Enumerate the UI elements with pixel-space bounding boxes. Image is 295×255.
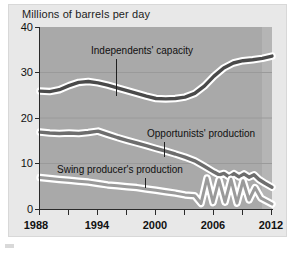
x-axis-label-2000: 2000 [135,219,175,231]
y-axis-line [39,27,40,210]
series-swing-producers-production [40,178,272,204]
y-axis-label-30: 30 [7,66,33,78]
x-tick-2012 [271,210,272,215]
y-tick-30 [35,72,39,73]
y-axis-label-20: 20 [7,112,33,124]
annotation-swing-producers-production: Swing producer's production [57,164,183,175]
x-axis-label-2012: 2012 [251,219,291,231]
y-tick-10 [35,163,39,164]
y-axis-label-10: 10 [7,157,33,169]
x-tick-2003 [184,210,185,215]
chart-figure: Millions of barrels per day In [0,0,295,255]
annotation-leader-independents [116,59,117,96]
y-tick-40 [35,27,39,28]
x-tick-1997 [126,210,127,215]
plot-area: Independents' capacity Opportunists' pro… [40,27,272,209]
x-tick-2009 [242,210,243,215]
annotation-leader-opportunists [164,142,165,157]
x-axis-line [39,209,273,210]
x-axis-label-2006: 2006 [193,219,233,231]
x-axis-label-1988: 1988 [16,219,56,231]
page-title: Millions of barrels per day [22,8,150,20]
x-tick-2000 [155,210,156,215]
x-tick-1988 [39,210,40,215]
x-tick-2006 [213,210,214,215]
y-axis-label-40: 40 [7,21,33,33]
series-independents-capacity [40,56,272,99]
annotation-independents-capacity: Independents' capacity [91,45,193,56]
x-tick-1991 [68,210,69,215]
x-axis-label-1994: 1994 [77,219,117,231]
y-tick-20 [35,118,39,119]
annotation-opportunists-production: Opportunists' production [147,128,255,139]
x-tick-1994 [97,210,98,215]
corner-mark [5,244,14,248]
y-axis-label-0: 0 [7,203,33,215]
annotation-leader-swing [145,178,146,188]
